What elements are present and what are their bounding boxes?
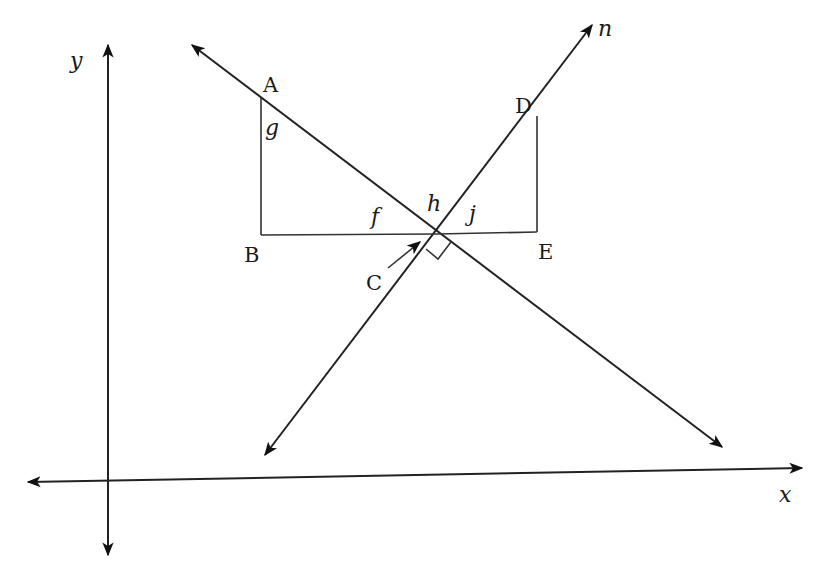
pointer-to-c (388, 242, 420, 268)
geometry-diagram: y x n A B C D E g f h j (0, 0, 824, 579)
point-a-label: A (262, 73, 279, 97)
right-angle-marker (426, 242, 451, 259)
angle-f-label: f (369, 204, 383, 229)
line-n-label: n (598, 16, 612, 41)
y-axis-label: y (69, 48, 83, 73)
angle-g-label: g (265, 115, 279, 140)
angle-h-label: h (427, 191, 441, 216)
point-c-label: C (366, 271, 382, 295)
angle-j-label: j (464, 201, 476, 226)
x-axis-label: x (779, 482, 792, 507)
segment-ce (437, 232, 537, 234)
point-e-label: E (538, 240, 553, 264)
point-b-label: B (244, 243, 259, 267)
point-d-label: D (515, 94, 532, 118)
x-axis (28, 468, 802, 482)
segment-bc (261, 234, 437, 235)
line-ac (192, 45, 722, 447)
